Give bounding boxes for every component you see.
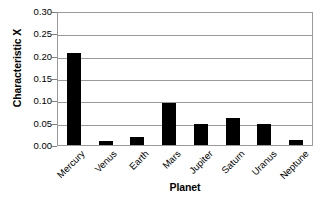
x-tick-label: Neptune <box>278 148 311 181</box>
bar-chart: Characteristic X 0.000.050.100.150.200.2… <box>0 0 329 202</box>
x-axis-title: Planet <box>57 181 313 193</box>
bar-slot <box>185 13 217 145</box>
bar-slot <box>217 13 249 145</box>
bar-slot <box>122 13 154 145</box>
y-tick-label: 0.10 <box>20 97 52 107</box>
x-tick-label: Mars <box>160 148 183 171</box>
bar-slot <box>280 13 312 145</box>
x-tick-label: Jupiter <box>187 148 215 176</box>
bar[interactable] <box>130 137 144 145</box>
y-tick-mark <box>52 101 57 102</box>
y-tick-mark <box>52 79 57 80</box>
bar-slot <box>58 13 90 145</box>
bars-layer <box>58 13 312 145</box>
y-tick-label: 0.15 <box>20 74 52 84</box>
y-tick-label: 0.25 <box>20 30 52 40</box>
bar[interactable] <box>289 140 303 145</box>
x-tick-label: Mercury <box>55 148 87 180</box>
bar[interactable] <box>67 53 81 145</box>
x-axis-tick-labels: MercuryVenusEarthMarsJupiterSaturnUranus… <box>57 146 313 180</box>
y-tick-mark <box>52 124 57 125</box>
y-tick-label: 0.00 <box>20 141 52 151</box>
bar[interactable] <box>226 118 240 145</box>
y-tick-mark <box>52 146 57 147</box>
y-tick-mark <box>52 34 57 35</box>
plot-area <box>57 12 313 146</box>
y-axis-tick-labels: 0.000.050.100.150.200.250.30 <box>20 12 52 146</box>
x-tick-label: Saturn <box>219 148 247 176</box>
bar-slot <box>153 13 185 145</box>
bar-slot <box>90 13 122 145</box>
y-tick-mark <box>52 57 57 58</box>
y-tick-label: 0.20 <box>20 52 52 62</box>
bar-slot <box>249 13 281 145</box>
bar[interactable] <box>257 124 271 145</box>
y-tick-mark <box>52 12 57 13</box>
x-tick-label: Venus <box>92 148 118 174</box>
x-tick-label: Uranus <box>249 148 278 177</box>
bar[interactable] <box>99 141 113 145</box>
bar[interactable] <box>162 103 176 145</box>
bar[interactable] <box>194 124 208 145</box>
y-tick-label: 0.30 <box>20 7 52 17</box>
x-tick-label: Earth <box>127 148 151 172</box>
y-tick-label: 0.05 <box>20 119 52 129</box>
